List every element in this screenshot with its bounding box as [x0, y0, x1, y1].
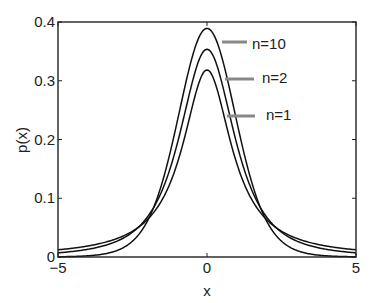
curve-n-1	[58, 70, 356, 250]
curve-n-2	[58, 49, 356, 253]
y-tick-label: 0.1	[34, 189, 55, 206]
x-tick-label: 5	[352, 259, 360, 276]
annotation-label: n=2	[262, 69, 287, 86]
annotations: n=10n=2n=1	[222, 35, 291, 123]
curves	[58, 28, 356, 256]
annotation-label: n=10	[252, 35, 286, 52]
x-tick-label: −5	[49, 259, 66, 276]
y-tick-label: 0.3	[34, 72, 55, 89]
x-tick-label: 0	[203, 259, 211, 276]
y-axis-label: p(x)	[13, 127, 30, 153]
plot-frame	[58, 22, 356, 257]
curve-n-10	[58, 28, 356, 256]
chart: 00.10.20.30.4−505 n=10n=2n=1 x p(x)	[0, 0, 378, 303]
annotation-label: n=1	[266, 106, 291, 123]
y-tick-label: 0.4	[34, 13, 55, 30]
axis-ticks: 00.10.20.30.4−505	[34, 13, 360, 276]
x-axis-label: x	[203, 282, 211, 299]
y-tick-label: 0.2	[34, 131, 55, 148]
